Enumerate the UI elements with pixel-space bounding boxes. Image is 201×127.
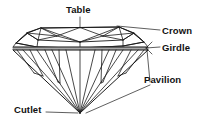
- pavilion-main-facet-3: [52, 50, 80, 113]
- crown-group: [13, 27, 148, 48]
- star-facet-rim-right: [103, 36, 123, 40]
- lower-girdle-facet-left-4: [59, 50, 60, 83]
- label-girdle: Girdle: [162, 43, 190, 53]
- label-table: Table: [66, 5, 91, 15]
- upper-girdle-facet-1: [16, 33, 38, 43]
- crown-rim-left: [16, 43, 37, 47]
- label-crown: Crown: [162, 26, 192, 36]
- leader-line-cutlet: [46, 112, 78, 113]
- pavilion-main-facet-2: [37, 50, 80, 113]
- bezel-facet-left: [37, 40, 38, 47]
- leader-lines-group: [46, 17, 160, 113]
- star-facet-rim-left: [38, 36, 57, 40]
- pavilion-main-facet-9: [80, 50, 138, 113]
- label-pavilion: Pavilion: [144, 75, 181, 85]
- pavilion-main-facet-4: [66, 50, 80, 113]
- pavilion-main-facet-6: [80, 50, 95, 113]
- label-cutlet: Cutlet: [14, 105, 42, 115]
- lower-girdle-facet-left-3: [45, 50, 58, 82]
- lower-girdle-facet-right-3: [103, 50, 116, 82]
- girdle-group: [13, 47, 148, 50]
- lower-girdle-facet-right-4: [101, 50, 102, 83]
- diamond-anatomy-diagram: Table Crown Girdle Pavilion Cutlet: [0, 0, 201, 127]
- crown-rim-right: [123, 42, 144, 46]
- pavilion-main-facet-7: [80, 50, 109, 113]
- crown-edge-left-lower: [13, 43, 16, 47]
